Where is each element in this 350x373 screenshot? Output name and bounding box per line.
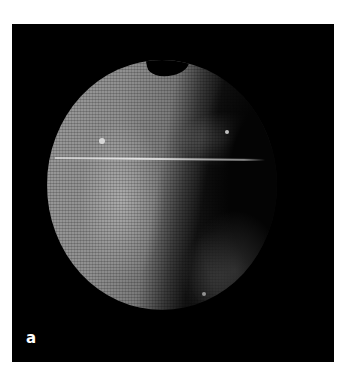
scope-notch [145, 60, 191, 80]
figure-panel: a [12, 24, 334, 362]
specular-highlight [99, 138, 105, 144]
specular-highlight [202, 292, 206, 296]
panel-label: a [26, 329, 36, 347]
dim-tissue-region [187, 210, 277, 310]
endoscopic-view [47, 60, 277, 310]
specular-highlight [225, 130, 229, 134]
